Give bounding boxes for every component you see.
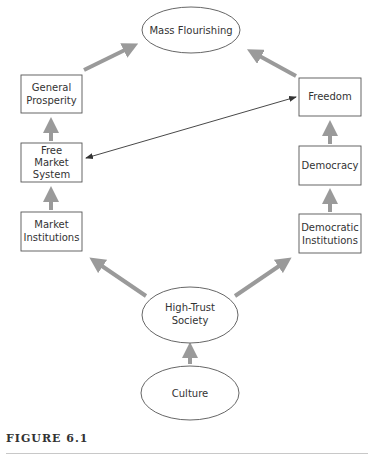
node-democratic-institutions-line1: Democratic bbox=[301, 222, 359, 233]
diagram-canvas: Mass Flourishing General Prosperity Free… bbox=[0, 0, 381, 456]
arrow-high-trust-to-democratic-institutions bbox=[235, 262, 285, 296]
arrow-freedom-to-mass-flourishing bbox=[254, 53, 296, 76]
node-general-prosperity: General Prosperity bbox=[21, 75, 82, 113]
node-general-prosperity-line2: Prosperity bbox=[26, 95, 76, 106]
node-democracy-label: Democracy bbox=[302, 160, 359, 171]
arrow-high-trust-to-market-institutions bbox=[96, 262, 146, 296]
node-democratic-institutions: Democratic Institutions bbox=[299, 214, 361, 253]
node-market-institutions: Market Institutions bbox=[21, 212, 82, 251]
node-democratic-institutions-line2: Institutions bbox=[302, 235, 358, 246]
node-culture: Culture bbox=[141, 366, 239, 420]
node-market-institutions-line1: Market bbox=[34, 219, 68, 230]
node-freedom: Freedom bbox=[299, 78, 361, 116]
figure-caption: FIGURE 6.1 bbox=[6, 432, 88, 445]
node-free-market-system-line2: Market bbox=[34, 157, 68, 168]
node-high-trust-society: High-Trust Society bbox=[142, 287, 238, 343]
node-mass-flourishing: Mass Flourishing bbox=[142, 7, 240, 53]
node-general-prosperity-line1: General bbox=[32, 82, 71, 93]
node-free-market-system: Free Market System bbox=[21, 143, 82, 182]
node-high-trust-society-line1: High-Trust bbox=[165, 302, 215, 313]
arrow-general-prosperity-to-mass-flourishing bbox=[84, 47, 131, 70]
node-democracy: Democracy bbox=[299, 146, 361, 185]
arrow-free-market-freedom-bidirectional bbox=[86, 97, 296, 158]
node-mass-flourishing-label: Mass Flourishing bbox=[149, 25, 232, 36]
node-free-market-system-line1: Free bbox=[41, 145, 62, 156]
caption-divider bbox=[6, 453, 368, 454]
node-freedom-label: Freedom bbox=[308, 91, 351, 102]
node-free-market-system-line3: System bbox=[33, 169, 70, 180]
node-culture-label: Culture bbox=[172, 388, 208, 399]
node-high-trust-society-line2: Society bbox=[172, 315, 209, 326]
node-market-institutions-line2: Institutions bbox=[24, 232, 80, 243]
